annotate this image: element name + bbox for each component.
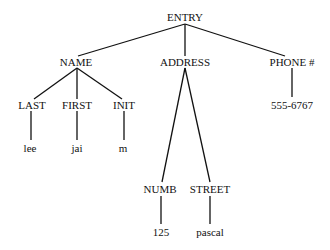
node-first: FIRST — [62, 99, 92, 111]
edge-name-last — [34, 68, 77, 99]
leaf-jai: jai — [72, 142, 83, 154]
edge-address-street — [185, 68, 210, 182]
node-phone-value: 555-6767 — [271, 99, 313, 111]
node-init: INIT — [113, 99, 135, 111]
edge-entry-name — [78, 24, 185, 56]
node-entry: ENTRY — [167, 11, 203, 23]
edge-entry-phone — [185, 24, 285, 56]
leaf-lee: lee — [24, 142, 37, 154]
node-last: LAST — [18, 99, 46, 111]
edge-name-init — [77, 68, 122, 99]
node-phone: PHONE # — [270, 56, 315, 68]
node-name: NAME — [60, 56, 92, 68]
node-numb: NUMB — [143, 183, 176, 195]
edge-address-numb — [162, 68, 185, 182]
node-street: STREET — [190, 183, 230, 195]
leaf-numb-value: 125 — [153, 226, 170, 238]
node-address: ADDRESS — [160, 56, 210, 68]
tree-edges — [0, 0, 330, 250]
leaf-m: m — [119, 142, 128, 154]
leaf-street-value: pascal — [196, 226, 223, 238]
